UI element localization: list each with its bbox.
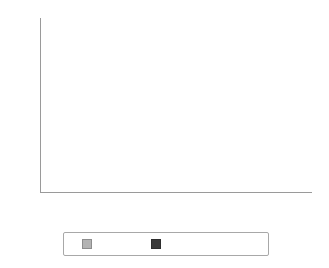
plot-area bbox=[0, 0, 329, 222]
chart-legend bbox=[63, 232, 269, 256]
x-axis-ticks bbox=[40, 193, 312, 199]
y-axis-labels bbox=[0, 0, 34, 222]
bar-series-group bbox=[41, 18, 312, 192]
legend-swatch-modern-icon bbox=[82, 239, 92, 249]
legend-swatch-traditional-icon bbox=[151, 239, 161, 249]
legend-item-modern bbox=[82, 233, 99, 255]
legend-item-traditional bbox=[151, 233, 168, 255]
stacked-bar-chart bbox=[0, 0, 329, 268]
